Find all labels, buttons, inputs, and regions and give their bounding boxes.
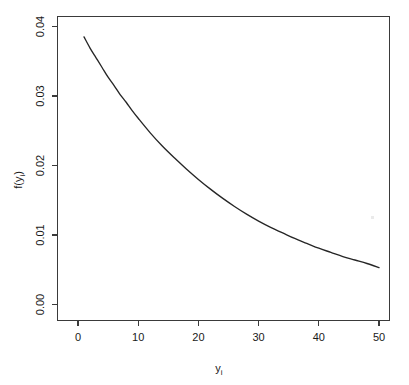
y-axis-title-main: f(y [12, 176, 24, 189]
svg-text:f(yi): f(yi) [12, 171, 27, 189]
chart-figure: 0.04 0.03 0.02 0.01 0.00 0 10 20 30 40 5… [0, 0, 409, 385]
y-tick-label: 0.01 [34, 224, 46, 245]
x-axis-title-subscript: i [221, 368, 223, 377]
x-tick-label: 10 [132, 331, 144, 343]
scan-artifact [371, 216, 374, 219]
data-series-line [84, 37, 379, 268]
x-tick-label: 40 [313, 331, 325, 343]
y-axis-title-close: ) [12, 171, 24, 175]
x-tick-label: 20 [192, 331, 204, 343]
y-tick-label: 0.04 [34, 16, 46, 37]
y-axis-title: f(yi) [12, 171, 27, 189]
y-tick-marks [52, 27, 58, 305]
y-tick-label: 0.00 [34, 294, 46, 315]
y-tick-labels: 0.04 0.03 0.02 0.01 0.00 [34, 16, 46, 315]
x-tick-labels: 0 10 20 30 40 50 [75, 331, 385, 343]
y-tick-label: 0.03 [34, 85, 46, 106]
x-axis-title: yi [215, 362, 223, 377]
x-tick-label: 0 [75, 331, 81, 343]
x-tick-label: 30 [252, 331, 264, 343]
y-tick-label: 0.02 [34, 155, 46, 176]
plot-frame [58, 17, 390, 321]
x-tick-marks [78, 321, 379, 327]
x-tick-label: 50 [373, 331, 385, 343]
plot-canvas: 0.04 0.03 0.02 0.01 0.00 0 10 20 30 40 5… [0, 0, 409, 385]
svg-text:yi: yi [215, 362, 223, 377]
